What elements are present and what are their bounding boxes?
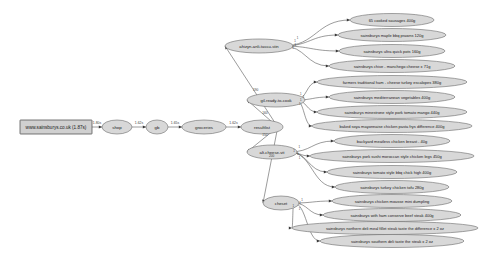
node-leaf-15-shape	[292, 222, 478, 235]
node-cat-dairy-shape	[247, 145, 297, 159]
node-leaf-14[interactable]: sainsburys with ham conserve beef steak …	[323, 209, 461, 222]
node-leaf-13[interactable]: sainsburys chicken mousse mini dumpling	[332, 195, 452, 208]
edge-leaf-label-12: 1	[301, 198, 303, 202]
edge-leaf-9-arrow	[307, 155, 310, 158]
node-leaf-4-shape	[329, 60, 455, 73]
edge-leaf-label-15: 1	[299, 207, 301, 211]
node-leaf-5[interactable]: farmers traditional ham - cheese turkey …	[317, 76, 467, 89]
edge-leaf-12	[294, 201, 332, 203]
node-leaf-1-shape	[350, 14, 434, 27]
root-node[interactable]: www.sainsburys.co.uk (1.87s)	[20, 120, 92, 134]
node-leaf-7[interactable]: sainsburys minestrone style pork tomato …	[317, 106, 467, 119]
edge-leaf-13-arrow	[320, 214, 323, 217]
node-gb[interactable]: gb	[146, 120, 168, 134]
node-leaf-3[interactable]: sainsburys ultra quick pots 160g	[339, 45, 445, 58]
node-shop[interactable]: shop	[102, 120, 132, 134]
node-leaf-16-shape	[320, 235, 464, 248]
node-leaf-8-shape	[312, 120, 472, 133]
edge-leaf-1-arrow	[335, 34, 338, 37]
edge-chain-label-2: 1.65s	[171, 121, 180, 125]
node-leaf-14-shape	[323, 209, 461, 222]
node-resultlist-shape	[241, 120, 283, 134]
node-cat-meat-fish[interactable]: ahizyn-anli-tassu-stin	[225, 39, 293, 53]
node-cat-bread[interactable]: cheset	[263, 196, 299, 210]
node-leaf-11-shape	[327, 166, 457, 179]
edge-leaf-4-arrow	[314, 81, 317, 84]
node-leaf-11[interactable]: sainsburys tomato style bbq chick high 4…	[327, 166, 457, 179]
root-node-shape	[20, 120, 92, 134]
node-leaf-1[interactable]: 65 cooked sausages 400g	[350, 14, 434, 27]
node-cat-ready-meals-shape	[247, 93, 305, 107]
edge-leaf-label-11: 1	[299, 156, 301, 160]
edge-leaf-label-1: 1	[294, 39, 296, 43]
node-cat-bread-shape	[263, 196, 299, 210]
graph-diagram: www.sainsburys.co.uk (1.87s)shopgbgrocer…	[0, 0, 481, 253]
node-leaf-12[interactable]: sainsburys turkey chicken tofu 280g	[335, 181, 449, 194]
node-groceries-shape	[182, 120, 226, 134]
edge-leaf-11-arrow	[332, 186, 335, 189]
node-resultlist[interactable]: resultlist	[241, 120, 283, 134]
edge-hub-label-1: 160	[262, 111, 268, 115]
node-leaf-16[interactable]: sainsburys southern deli taste the steak…	[320, 235, 464, 248]
node-leaf-10[interactable]: sainsburys pork sushi moroccan style chi…	[310, 150, 474, 163]
edge-leaf-7-arrow	[309, 125, 312, 128]
edge-leaf-10-arrow	[324, 171, 327, 174]
edge-leaf-label-8: 1	[299, 145, 301, 149]
edge-leaf-15-arrow	[317, 240, 320, 243]
edge-leaf-label-13: 1	[299, 201, 301, 205]
nodes-layer: www.sainsburys.co.uk (1.87s)shopgbgrocer…	[20, 14, 478, 248]
edge-chain-2-arrow	[179, 126, 182, 129]
node-leaf-2-shape	[338, 29, 446, 42]
edge-chain-label-0: 1.80s	[93, 121, 102, 125]
node-leaf-15[interactable]: sainsburys northern deli meal fillet ste…	[292, 222, 478, 235]
edge-leaf-8-arrow	[331, 140, 334, 143]
node-leaf-3-shape	[339, 45, 445, 58]
node-leaf-13-shape	[332, 195, 452, 208]
edge-chain-label-1: 1.62s	[135, 121, 144, 125]
edge-hub-3	[263, 127, 278, 203]
edge-leaf-3-arrow	[326, 65, 329, 68]
edge-leaf-14-arrow	[289, 227, 292, 230]
node-shop-shape	[102, 120, 132, 134]
node-leaf-10-shape	[310, 150, 474, 163]
node-groceries[interactable]: groceries	[182, 120, 226, 134]
node-leaf-8[interactable]: baked soya mayonnaise chicken pasta frys…	[312, 120, 472, 133]
edge-chain-0-arrow	[99, 126, 102, 129]
node-gb-shape	[146, 120, 168, 134]
node-leaf-12-shape	[335, 181, 449, 194]
node-cat-dairy[interactable]: alt-cheese-vit	[247, 145, 297, 159]
edge-hub-0	[225, 46, 278, 127]
node-leaf-9-shape	[334, 135, 450, 148]
node-cat-meat-fish-shape	[225, 39, 293, 53]
node-leaf-6[interactable]: sainsburys mediterranean vegetables 400g	[329, 91, 455, 104]
node-leaf-6-shape	[329, 91, 455, 104]
node-leaf-5-shape	[317, 76, 467, 89]
edge-chain-label-3: 1.62s	[229, 121, 238, 125]
edge-leaf-2-arrow	[336, 50, 339, 53]
edge-leaf-label-4: 1	[300, 92, 302, 96]
edge-leaf-0-arrow	[347, 19, 350, 22]
node-leaf-9[interactable]: backyard meatless chicken breast - 40g	[334, 135, 450, 148]
edge-chain-3-arrow	[238, 126, 241, 129]
edge-leaf-label-0: 1	[297, 36, 299, 40]
node-cat-ready-meals[interactable]: gil-ready-to-cook	[247, 93, 305, 107]
node-leaf-2[interactable]: sainsburys maple bbq prawns 120g	[338, 29, 446, 42]
edge-leaf-15	[294, 203, 320, 241]
node-leaf-7-shape	[317, 106, 467, 119]
edge-leaf-6-arrow	[314, 111, 317, 114]
edge-leaf-5-arrow	[326, 96, 329, 99]
node-leaf-4[interactable]: sainsburys chive - manchego cheese x 71g	[329, 60, 455, 73]
edge-leaf-12-arrow	[329, 200, 332, 203]
edge-chain-1-arrow	[143, 126, 146, 129]
